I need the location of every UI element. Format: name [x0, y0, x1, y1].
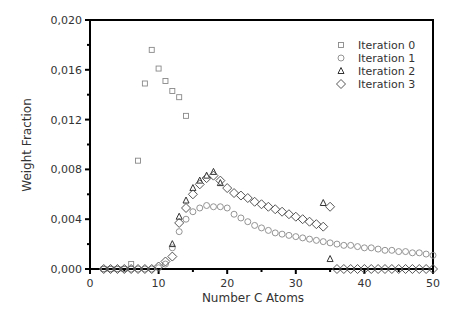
x-tick-label: 0 [87, 277, 94, 290]
square-marker [170, 88, 175, 93]
square-icon [339, 43, 344, 48]
y-tick-label: 0,000 [51, 263, 83, 276]
diamond-marker [188, 190, 197, 199]
square-marker [184, 113, 189, 118]
y-tick-label: 0,004 [51, 213, 83, 226]
series-iteration-0 [101, 47, 188, 271]
x-tick-label: 10 [152, 277, 166, 290]
legend-label: Iteration 3 [358, 78, 415, 91]
circle-marker [423, 251, 429, 257]
circle-marker [313, 237, 319, 243]
legend-label: Iteration 1 [358, 52, 415, 65]
circle-marker [307, 236, 313, 242]
circle-marker [334, 241, 340, 247]
circle-marker [252, 222, 258, 228]
square-marker [163, 79, 168, 84]
circle-marker [382, 247, 388, 253]
square-marker [149, 47, 154, 52]
legend-item: Iteration 3 [337, 78, 416, 91]
legend-item: Iteration 0 [339, 39, 416, 52]
triangle-marker [183, 197, 189, 203]
diamond-marker [195, 180, 204, 189]
x-tick-label: 30 [289, 277, 303, 290]
diamond-marker [223, 184, 232, 193]
diamond-icon [337, 80, 346, 89]
circle-marker [341, 242, 347, 248]
legend-label: Iteration 0 [358, 39, 415, 52]
circle-marker [403, 249, 409, 255]
circle-marker [183, 216, 189, 222]
circle-marker [409, 250, 415, 256]
circle-marker [396, 249, 402, 255]
y-tick-label: 0,016 [51, 64, 83, 77]
circle-marker [231, 211, 237, 217]
circle-marker [217, 204, 223, 210]
circle-marker [176, 229, 182, 235]
diamond-marker [326, 202, 335, 211]
triangle-marker [320, 200, 326, 206]
square-marker [136, 158, 141, 163]
circle-marker [286, 232, 292, 238]
circle-marker [238, 215, 244, 221]
diamond-marker [182, 203, 191, 212]
circle-icon [338, 55, 344, 61]
circle-marker [300, 235, 306, 241]
circle-marker [245, 219, 251, 225]
legend-label: Iteration 2 [358, 65, 415, 78]
square-marker [142, 81, 147, 86]
y-tick-label: 0,020 [51, 14, 83, 27]
circle-marker [272, 230, 278, 236]
series-iteration-1 [101, 203, 436, 272]
x-tick-label: 50 [426, 277, 440, 290]
circle-marker [293, 234, 299, 240]
x-tick-label: 20 [220, 277, 234, 290]
x-axis-title: Number C Atoms [202, 291, 304, 305]
circle-marker [210, 204, 216, 210]
y-axis-title: Weight Fraction [20, 98, 34, 192]
circle-marker [368, 245, 374, 251]
circle-marker [416, 250, 422, 256]
diamond-marker [168, 252, 177, 261]
diamond-marker [175, 218, 184, 227]
y-axis: 0,0000,0040,0080,0120,0160,020 [51, 14, 91, 276]
legend-item: Iteration 2 [338, 65, 415, 78]
circle-marker [375, 246, 381, 252]
circle-marker [355, 244, 361, 250]
square-marker [177, 95, 182, 100]
y-tick-label: 0,012 [51, 114, 83, 127]
legend-item: Iteration 1 [338, 52, 415, 65]
y-tick-label: 0,008 [51, 163, 83, 176]
circle-marker [361, 245, 367, 251]
series-iteration-3 [99, 171, 437, 273]
circle-marker [348, 242, 354, 248]
weight-fraction-chart: 0,0000,0040,0080,0120,0160,020 010203040… [0, 0, 457, 323]
legend: Iteration 0Iteration 1Iteration 2Iterati… [337, 39, 416, 91]
circle-marker [197, 205, 203, 211]
triangle-icon [338, 68, 344, 74]
circle-marker [204, 203, 210, 209]
circle-marker [279, 231, 285, 237]
circle-marker [224, 205, 230, 211]
triangle-marker [327, 256, 333, 262]
circle-marker [190, 209, 196, 215]
circle-marker [265, 227, 271, 233]
triangle-marker [169, 241, 175, 247]
circle-marker [320, 239, 326, 245]
square-marker [156, 66, 161, 71]
circle-marker [259, 225, 265, 231]
circle-marker [389, 247, 395, 253]
circle-marker [327, 240, 333, 246]
x-tick-label: 40 [357, 277, 371, 290]
